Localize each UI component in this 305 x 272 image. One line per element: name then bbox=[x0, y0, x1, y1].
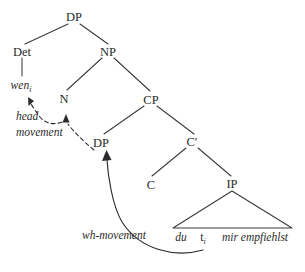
node-c: C bbox=[147, 178, 155, 192]
head-movement-path-segment-dp-to-n bbox=[68, 124, 94, 150]
node-root-dp: DP bbox=[66, 10, 82, 24]
node-spec-dp: DP bbox=[93, 136, 109, 150]
wh-movement-arrowhead bbox=[102, 150, 112, 161]
head-movement-label-line1: head bbox=[16, 110, 39, 122]
node-cp: CP bbox=[143, 93, 158, 107]
node-ip: IP bbox=[226, 177, 237, 191]
terminal-vp-string: mir empfiehlst bbox=[222, 231, 289, 244]
branch-cbar-ip bbox=[198, 148, 231, 176]
wh-movement-label: wh-movement bbox=[82, 229, 147, 241]
node-np: NP bbox=[100, 45, 116, 59]
terminal-wen: weni bbox=[11, 79, 32, 94]
head-movement-arrowhead-n bbox=[63, 114, 70, 123]
node-cbar: C′ bbox=[186, 135, 197, 149]
branch-dp-np bbox=[80, 24, 108, 44]
node-n: N bbox=[59, 92, 68, 106]
syntax-tree-figure: DP Det NP N CP DP C′ C IP weni du ti mir… bbox=[0, 0, 305, 272]
terminal-trace-index: i bbox=[204, 237, 206, 246]
branch-np-n bbox=[67, 58, 102, 90]
head-movement-label-line2: movement bbox=[16, 126, 63, 138]
terminal-wen-text: wen bbox=[11, 79, 30, 91]
branch-cp-dp bbox=[104, 106, 144, 134]
ip-triangle bbox=[173, 191, 292, 228]
terminal-trace: ti bbox=[200, 230, 206, 246]
tree-canvas: DP Det NP N CP DP C′ C IP weni du ti mir… bbox=[0, 0, 305, 272]
branch-cp-cbar bbox=[157, 106, 194, 134]
branch-np-cp bbox=[114, 58, 150, 91]
terminal-wen-index: i bbox=[29, 85, 31, 94]
terminal-du: du bbox=[175, 231, 187, 243]
branch-cbar-c bbox=[152, 148, 186, 176]
node-det: Det bbox=[13, 45, 32, 59]
branch-dp-det bbox=[25, 24, 68, 44]
